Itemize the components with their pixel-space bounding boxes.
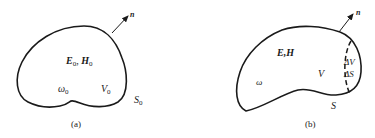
cavity-perturbation-diagram: n E0, H0 ω0 V0 S0 (a) n E,H ω V ΔV ΔS S … — [0, 0, 375, 138]
delta-surface-label: ΔS — [343, 69, 354, 79]
frequency-label-omega: ω — [256, 77, 262, 87]
surface-label-s0: S0 — [134, 94, 143, 107]
omega-subscript: 0 — [65, 88, 69, 96]
field-label-e0-h0: E0, H0 — [65, 55, 93, 68]
omega-symbol: ω — [58, 83, 65, 94]
surface-subscript: 0 — [139, 99, 143, 107]
panel-b: n E,H ω V ΔV ΔS S (b) — [237, 8, 361, 129]
normal-vector-arrow — [339, 14, 353, 32]
surface-label-s: S — [331, 100, 336, 111]
normal-vector-arrow — [112, 16, 128, 33]
perturbation-boundary-dashed — [345, 41, 351, 94]
frequency-label-omega0: ω0 — [58, 83, 69, 96]
volume-subscript: 0 — [107, 88, 111, 96]
caption-a: (a) — [71, 119, 81, 129]
delta-volume-label: ΔV — [343, 57, 356, 67]
volume-label-v0: V0 — [101, 83, 111, 96]
panel-a: n E0, H0 ω0 V0 S0 (a) — [17, 10, 143, 129]
normal-label: n — [130, 10, 135, 19]
field-h-subscript: 0 — [89, 60, 93, 68]
field-label-e-h: E,H — [276, 47, 295, 58]
volume-label-v: V — [318, 68, 326, 79]
normal-label: n — [356, 8, 361, 17]
caption-b: (b) — [305, 119, 316, 129]
cavity-boundary-s — [237, 26, 361, 111]
